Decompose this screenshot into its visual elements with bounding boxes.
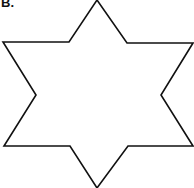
six-pointed-star-shape bbox=[3, 0, 193, 188]
star-figure bbox=[0, 0, 194, 188]
